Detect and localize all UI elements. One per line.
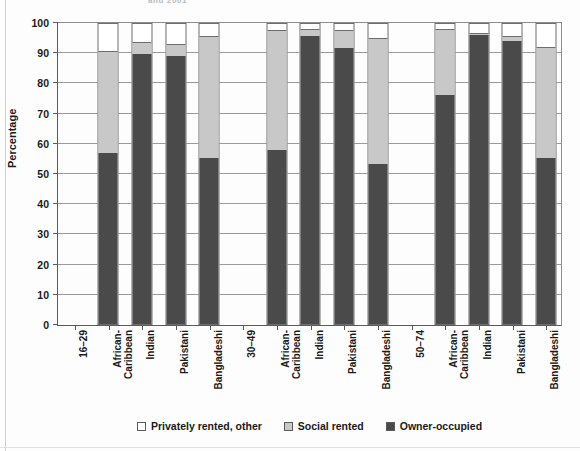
y-tick-mark — [53, 173, 58, 174]
label-line: 50–74 — [416, 330, 427, 410]
y-tick-label: 0 — [43, 319, 49, 331]
stacked-bar[interactable] — [536, 23, 557, 325]
bar-segment-owner-occupied — [503, 41, 522, 325]
bar-segment-owner-occupied — [537, 158, 556, 325]
label-line: Caribbean — [291, 330, 302, 410]
legend-label: Social rented — [298, 420, 364, 432]
page-edge-left — [5, 0, 6, 451]
label-line: African- — [281, 330, 292, 410]
stacked-bar[interactable] — [98, 23, 119, 325]
x-axis-group-label: 50–74 — [416, 330, 427, 410]
bar-slot — [327, 23, 361, 325]
legend-swatch-icon — [386, 422, 395, 431]
y-tick-label: 60 — [37, 138, 49, 150]
bar-segment-owner-occupied — [267, 150, 286, 324]
bar-slot — [462, 23, 496, 325]
y-tick-label: 40 — [37, 198, 49, 210]
stacked-bar[interactable] — [334, 23, 355, 325]
bar-slot — [125, 23, 159, 325]
bar-segment-owner-occupied — [301, 36, 320, 324]
stacked-bar[interactable] — [132, 23, 153, 325]
stacked-bar[interactable] — [367, 23, 388, 325]
bar-segment-owner-occupied — [335, 48, 354, 324]
y-tick-label: 30 — [37, 228, 49, 240]
y-tick-label: 90 — [37, 47, 49, 59]
label-line: African- — [113, 330, 124, 410]
y-tick-label: 100 — [31, 17, 49, 29]
bar-segment-social-rented — [99, 51, 118, 153]
x-axis-category-label: African-Caribbean — [449, 330, 470, 410]
x-axis-category-label: Pakistani — [180, 330, 191, 410]
bar-segment-owner-occupied — [133, 54, 152, 324]
x-axis-labels: 16–29African-CaribbeanIndianPakistaniBan… — [57, 330, 562, 418]
label-line: Caribbean — [460, 330, 471, 410]
label-line: Bangladeshi — [550, 330, 561, 410]
x-axis-category-label: Bangladeshi — [550, 330, 561, 410]
stacked-bar[interactable] — [199, 23, 220, 325]
x-axis-category-label: African-Caribbean — [113, 330, 134, 410]
bar-segment-social-rented — [200, 36, 219, 158]
bar-segment-social-rented — [335, 30, 354, 48]
legend-label: Owner-occupied — [400, 420, 482, 432]
legend-item[interactable]: Social rented — [284, 420, 364, 432]
label-line: Pakistani — [517, 330, 528, 410]
bar-segment-owner-occupied — [200, 158, 219, 325]
label-line: 30–49 — [247, 330, 258, 410]
y-tick-mark — [53, 52, 58, 53]
y-tick-label: 10 — [37, 289, 49, 301]
bar-segment-social-rented — [133, 42, 152, 54]
y-tick-label: 20 — [37, 259, 49, 271]
x-axis-category-label: Bangladeshi — [214, 330, 225, 410]
stacked-bar[interactable] — [435, 23, 456, 325]
bar-slot — [260, 23, 294, 325]
bar-slot — [294, 23, 328, 325]
bar-segment-owner-occupied — [368, 164, 387, 325]
bar-segment-social-rented — [368, 38, 387, 164]
bar-segment-owner-occupied — [436, 95, 455, 325]
stacked-bar[interactable] — [468, 23, 489, 325]
y-tick-mark — [53, 264, 58, 265]
bar-segment-social-rented — [537, 47, 556, 158]
y-tick-mark — [53, 22, 58, 23]
y-tick-mark — [53, 203, 58, 204]
label-line: Caribbean — [123, 330, 134, 410]
bar-segment-social-rented — [166, 44, 185, 56]
label-line: Indian — [146, 330, 157, 410]
y-tick-label: 50 — [37, 168, 49, 180]
label-line: Bangladeshi — [382, 330, 393, 410]
legend-item[interactable]: Privately rented, other — [137, 420, 262, 432]
label-line: Pakistani — [348, 330, 359, 410]
y-tick-label: 80 — [37, 77, 49, 89]
y-tick-mark — [53, 143, 58, 144]
label-line: 16–29 — [79, 330, 90, 410]
bar-slot — [496, 23, 530, 325]
bar-slot — [159, 23, 193, 325]
bar-slot — [428, 23, 462, 325]
page-edge-bottom — [0, 447, 580, 448]
stacked-bar[interactable] — [300, 23, 321, 325]
bar-slot — [193, 23, 227, 325]
y-tick-mark — [53, 233, 58, 234]
x-axis-category-label: Bangladeshi — [382, 330, 393, 410]
plot-area: 0102030405060708090100 — [57, 22, 562, 326]
label-line: Indian — [483, 330, 494, 410]
chart-legend: Privately rented, otherSocial rentedOwne… — [57, 418, 562, 434]
title-fragment: and 2001 — [148, 0, 187, 4]
bar-segment-social-rented — [267, 30, 286, 150]
x-axis-group-label: 30–49 — [247, 330, 258, 410]
legend-swatch-icon — [284, 422, 293, 431]
legend-swatch-icon — [137, 422, 146, 431]
bar-segment-social-rented — [436, 29, 455, 95]
bar-slot — [529, 23, 563, 325]
x-axis-category-label: Indian — [146, 330, 157, 410]
bar-segment-owner-occupied — [99, 153, 118, 324]
x-axis-category-label: Indian — [483, 330, 494, 410]
stacked-bar[interactable] — [165, 23, 186, 325]
stacked-bar[interactable] — [266, 23, 287, 325]
legend-item[interactable]: Owner-occupied — [386, 420, 482, 432]
y-tick-mark — [53, 294, 58, 295]
y-axis-title: Percentage — [6, 109, 18, 168]
label-line: Indian — [315, 330, 326, 410]
stacked-bar[interactable] — [502, 23, 523, 325]
bar-slot — [361, 23, 395, 325]
